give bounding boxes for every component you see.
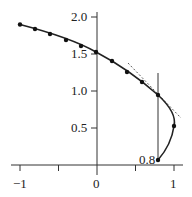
y-tick-label: 2.0 [71, 9, 87, 24]
y-tick-label: 1.5 [71, 46, 87, 61]
y-tick-label: 0.5 [71, 120, 87, 135]
y-tick-label: 1.0 [71, 83, 87, 98]
point-label: 0.8 [139, 152, 155, 167]
x-tick-label: 1 [170, 176, 177, 191]
tangent-line [128, 63, 181, 118]
chart: −1 0 1 2.0 1.5 1.0 0.5 0.8 [0, 0, 192, 197]
plot-area: −1 0 1 2.0 1.5 1.0 0.5 0.8 [0, 0, 192, 197]
x-tick-label: 0 [93, 176, 100, 191]
x-tick-label: −1 [13, 176, 27, 191]
y-ticks [91, 17, 97, 128]
